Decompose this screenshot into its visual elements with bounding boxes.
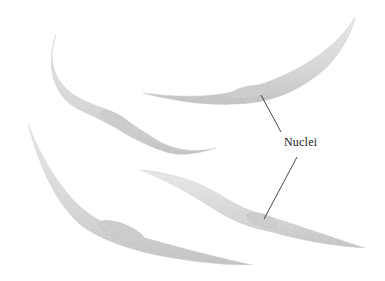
cell-top-left	[51, 35, 216, 154]
cell-bottom-right	[140, 170, 365, 248]
pointer-line-upper	[261, 95, 281, 132]
cells-illustration	[0, 0, 385, 281]
nuclei-label: Nuclei	[284, 135, 317, 150]
pointer-line-lower	[264, 157, 297, 219]
cell-top-right	[143, 17, 355, 104]
